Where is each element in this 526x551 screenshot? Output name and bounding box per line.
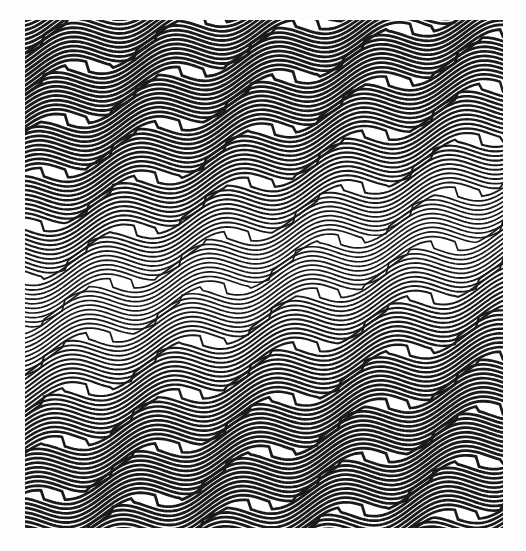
artboard [0,0,526,551]
op-art-wave-pattern [0,0,526,551]
